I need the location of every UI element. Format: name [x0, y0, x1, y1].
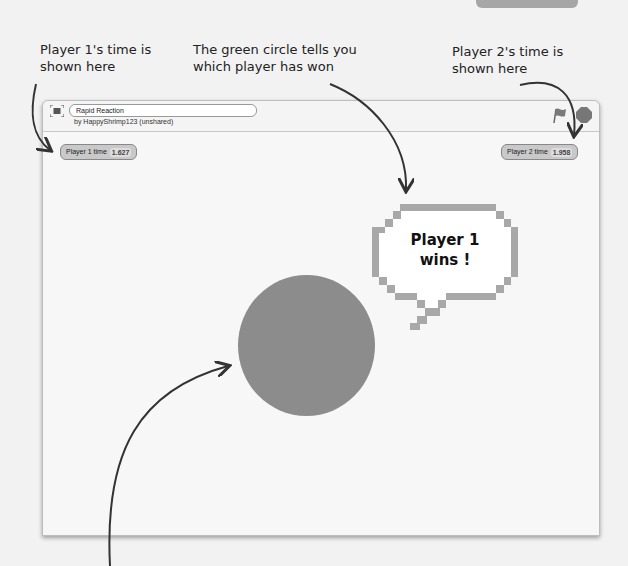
player1-time-monitor: Player 1 time 1.627: [60, 144, 137, 160]
monitor-value: 1.958: [551, 148, 573, 157]
player2-time-monitor: Player 2 time 1.958: [501, 144, 578, 160]
annotation-text: which player has won: [193, 58, 357, 75]
annotation-green-circle: The green circle tells you which player …: [193, 41, 357, 75]
monitor-value: 1.627: [110, 148, 132, 157]
project-title-input[interactable]: Rapid Reaction: [69, 104, 257, 117]
speech-bubble-text: Player 1 wins !: [370, 204, 520, 270]
speech-bubble: Player 1 wins !: [370, 204, 520, 336]
winner-circle-sprite[interactable]: [238, 275, 375, 416]
annotation-player2: Player 2's time is shown here: [452, 43, 563, 77]
annotation-text: The green circle tells you: [193, 41, 357, 58]
project-author: by HappyShrimp123 (unshared): [74, 118, 173, 125]
green-flag-icon[interactable]: [552, 106, 568, 124]
bubble-line: wins !: [370, 250, 520, 270]
annotation-text: Player 2's time is: [452, 43, 563, 60]
annotation-text: shown here: [40, 58, 151, 75]
annotation-player1: Player 1's time is shown here: [40, 41, 151, 75]
stage-titlebar: Rapid Reaction by HappyShrimp123 (unshar…: [43, 101, 599, 132]
stop-icon[interactable]: [576, 107, 592, 123]
monitor-label: Player 1 time: [66, 145, 107, 159]
bubble-line: Player 1: [370, 230, 520, 250]
top-tab-button: [476, 0, 578, 8]
fullscreen-icon[interactable]: [50, 105, 64, 117]
monitor-label: Player 2 time: [507, 145, 548, 159]
annotation-text: shown here: [452, 60, 563, 77]
annotation-text: Player 1's time is: [40, 41, 151, 58]
